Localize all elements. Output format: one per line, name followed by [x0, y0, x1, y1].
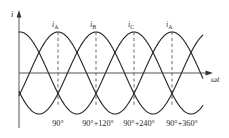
- x-tick-label-4: 90°+360°: [166, 119, 198, 128]
- chart-background: [0, 0, 229, 138]
- x-axis-label: ωt: [211, 74, 220, 84]
- x-tick-label-3: 90°+240°: [123, 119, 155, 128]
- three-phase-waveform-chart: i ωt iA iB iC iA 90° 90°+120° 90°+240° 9…: [0, 0, 229, 138]
- x-tick-label-1: 90°: [52, 119, 63, 128]
- x-tick-label-2: 90°+120°: [82, 119, 114, 128]
- waveform-figure: i ωt iA iB iC iA 90° 90°+120° 90°+240° 9…: [0, 0, 229, 138]
